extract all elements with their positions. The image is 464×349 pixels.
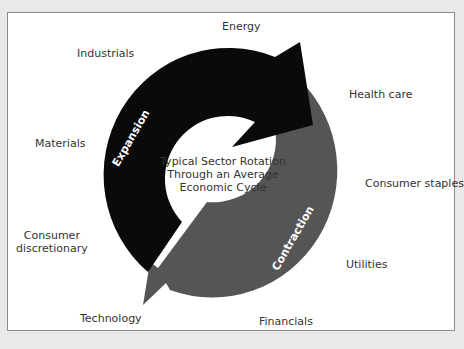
diagram-title: Typical Sector Rotation Through an Avera… <box>160 155 286 194</box>
sector-financials: Financials <box>259 315 313 328</box>
sector-energy: Energy <box>222 20 261 33</box>
sector-technology: Technology <box>80 312 142 325</box>
title-line-3: Economic Cycle <box>160 181 286 194</box>
sector-industrials: Industrials <box>77 47 134 60</box>
sector-consumer-discretionary: Consumer discretionary <box>16 229 88 255</box>
title-line-2: Through an Average <box>160 168 286 181</box>
sector-consumer-discretionary-line-1: Consumer <box>16 229 88 242</box>
sector-health-care: Health care <box>349 88 412 101</box>
sector-utilities: Utilities <box>346 258 387 271</box>
sector-consumer-discretionary-line-2: discretionary <box>16 242 88 255</box>
title-line-1: Typical Sector Rotation <box>160 155 286 168</box>
sector-materials: Materials <box>35 137 85 150</box>
sector-consumer-staples: Consumer staples <box>365 177 464 190</box>
